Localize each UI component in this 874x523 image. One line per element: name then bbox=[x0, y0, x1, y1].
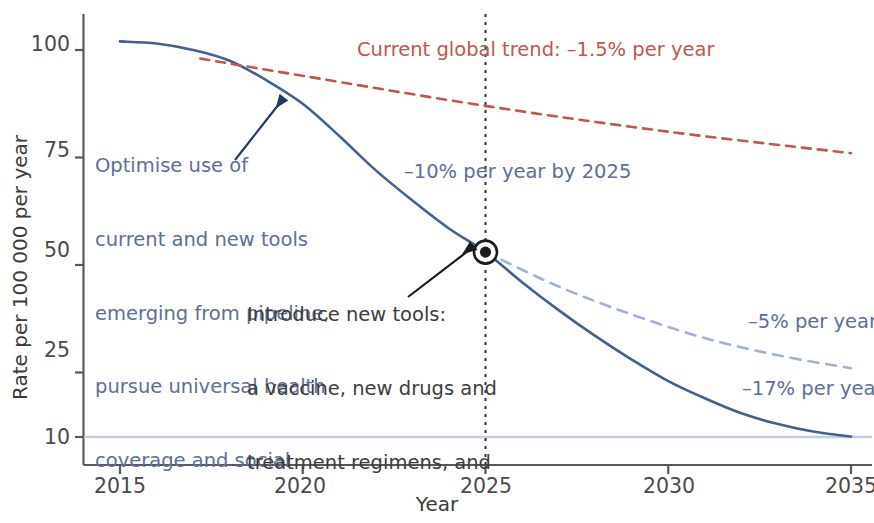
seventeen-percent-label: –17% per year bbox=[742, 377, 874, 402]
optimise-line-2: current and new tools bbox=[95, 228, 330, 253]
y-tick-label-100: 100 bbox=[10, 32, 70, 58]
decline-rate-by-2025-label: –10% per year by 2025 bbox=[404, 160, 631, 185]
new-tools-line-2: a vaccine, new drugs and bbox=[247, 377, 497, 402]
introduce-new-tools-annotation: Introduce new tools: a vaccine, new drug… bbox=[247, 254, 497, 523]
new-tools-line-1: Introduce new tools: bbox=[247, 303, 497, 328]
y-tick-label-25: 25 bbox=[10, 338, 70, 364]
x-tick-label-2030: 2030 bbox=[624, 474, 714, 500]
y-tick-label-50: 50 bbox=[10, 238, 70, 264]
y-tick-label-75: 75 bbox=[10, 138, 70, 164]
five-percent-label: –5% per year bbox=[748, 310, 874, 335]
y-tick-label-10: 10 bbox=[10, 425, 70, 451]
new-tools-line-3: treatment regimens, and bbox=[247, 451, 497, 476]
current-global-trend-label: Current global trend: –1.5% per year bbox=[357, 38, 714, 63]
optimise-line-1: Optimise use of bbox=[95, 154, 330, 179]
tb-incidence-projection-chart: Rate per 100 000 per year Year 100 75 50… bbox=[0, 0, 874, 523]
x-tick-label-2035: 2035 bbox=[806, 474, 874, 500]
